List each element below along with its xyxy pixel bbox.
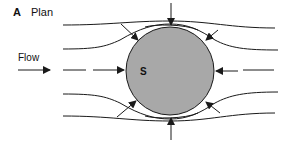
body-label: S: [140, 66, 147, 77]
panel-letter: A: [13, 6, 21, 18]
panel-title: Plan: [31, 6, 53, 18]
flow-label: Flow: [18, 52, 39, 63]
